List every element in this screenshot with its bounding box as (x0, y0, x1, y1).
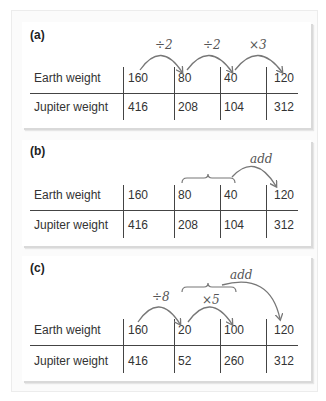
brace-icon (182, 283, 236, 292)
svg-text:×3: ×3 (249, 38, 267, 52)
panel-c: (c) Earth weight Jupiter weight 160 20 1… (22, 256, 311, 381)
arrow-annotations: ÷8 ×5 add (22, 256, 311, 381)
arrow-icon (140, 55, 182, 72)
arrow-annotations: ÷2 ÷2 ×3 (22, 22, 311, 128)
svg-text:add: add (230, 268, 253, 282)
arrow-annotations: add (22, 140, 311, 246)
arrow-icon (188, 307, 232, 324)
arrow-icon (235, 55, 282, 72)
arrow-icon (187, 55, 232, 72)
svg-text:×5: ×5 (202, 293, 220, 307)
svg-text:÷8: ÷8 (152, 290, 170, 304)
svg-text:add: add (250, 152, 273, 166)
arrow-icon (232, 166, 276, 186)
panel-b: (b) Earth weight Jupiter weight 160 80 4… (22, 140, 311, 246)
arrow-icon (138, 307, 180, 324)
svg-text:÷2: ÷2 (203, 38, 221, 52)
panel-a: (a) Earth weight Jupiter weight 160 80 4… (22, 22, 311, 128)
arrow-icon (222, 282, 280, 319)
svg-text:÷2: ÷2 (155, 38, 173, 52)
brace-icon (182, 174, 235, 183)
